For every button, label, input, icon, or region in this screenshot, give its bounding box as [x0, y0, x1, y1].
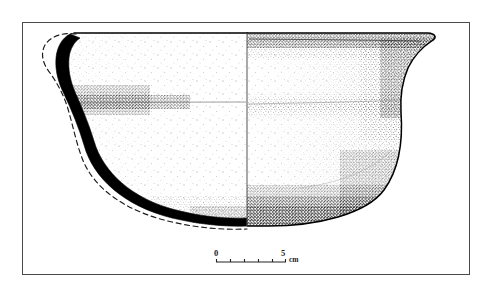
scale-unit-label: cm [289, 256, 299, 264]
scale-end-label: 5 [281, 249, 285, 258]
scale-start-label: 0 [214, 249, 218, 258]
pottery-drawing [0, 0, 490, 294]
illustration-plate: 0 5 cm [0, 0, 490, 294]
